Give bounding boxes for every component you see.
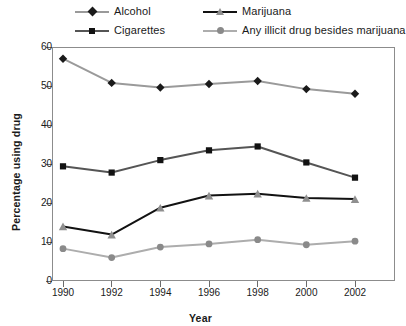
diamond-marker-icon xyxy=(59,55,67,63)
circle-marker-icon xyxy=(60,245,67,252)
diamond-marker-icon xyxy=(253,77,261,85)
plot-series-layer xyxy=(0,44,401,326)
circle-marker-icon xyxy=(157,244,164,251)
square-marker-icon xyxy=(60,163,66,169)
legend-swatch-any-illicit-drug xyxy=(203,25,237,36)
triangle-marker-icon xyxy=(216,8,224,15)
series-marijuana xyxy=(59,190,359,239)
x-axis-label: Year xyxy=(0,312,401,324)
square-marker-icon xyxy=(352,175,358,181)
diamond-marker-icon xyxy=(205,80,213,88)
legend-label-cigarettes: Cigarettes xyxy=(109,25,165,36)
legend-item-cigarettes[interactable]: Cigarettes xyxy=(75,25,165,36)
circle-marker-icon xyxy=(217,27,224,34)
legend-label-any-illicit-drug: Any illicit drug besides marijuana xyxy=(237,25,406,36)
circle-marker-icon xyxy=(206,241,213,248)
series-any-illicit-drug-besides-marijuana xyxy=(60,236,359,261)
square-marker-icon xyxy=(89,28,95,34)
diamond-marker-icon xyxy=(107,79,115,87)
square-marker-icon xyxy=(109,169,115,175)
diamond-marker-icon xyxy=(156,83,164,91)
legend-item-marijuana[interactable]: Marijuana xyxy=(203,6,291,17)
diamond-marker-icon xyxy=(302,85,310,93)
circle-marker-icon xyxy=(352,238,359,245)
circle-marker-icon xyxy=(254,236,261,243)
chart-legend: Alcohol Cigarettes Marijuana Any illicit… xyxy=(0,4,401,44)
legend-item-any-illicit-drug[interactable]: Any illicit drug besides marijuana xyxy=(203,25,406,36)
circle-marker-icon xyxy=(303,241,310,248)
legend-swatch-marijuana xyxy=(203,6,237,17)
plot-area: 0102030405060 19901992199419961998200020… xyxy=(0,44,401,326)
y-axis-label: Percentage using drug xyxy=(10,112,22,232)
series-alcohol xyxy=(59,55,359,99)
legend-item-alcohol[interactable]: Alcohol xyxy=(75,6,151,17)
legend-swatch-alcohol xyxy=(75,6,109,17)
legend-label-marijuana: Marijuana xyxy=(237,6,291,17)
series-line xyxy=(63,194,355,235)
square-marker-icon xyxy=(255,143,261,149)
legend-label-alcohol: Alcohol xyxy=(109,6,151,17)
series-line xyxy=(63,59,355,94)
diamond-marker-icon xyxy=(87,7,97,17)
circle-marker-icon xyxy=(108,254,115,261)
series-cigarettes xyxy=(60,143,358,180)
square-marker-icon xyxy=(303,159,309,165)
square-marker-icon xyxy=(157,157,163,163)
diamond-marker-icon xyxy=(351,90,359,98)
legend-swatch-cigarettes xyxy=(75,25,109,36)
square-marker-icon xyxy=(206,147,212,153)
